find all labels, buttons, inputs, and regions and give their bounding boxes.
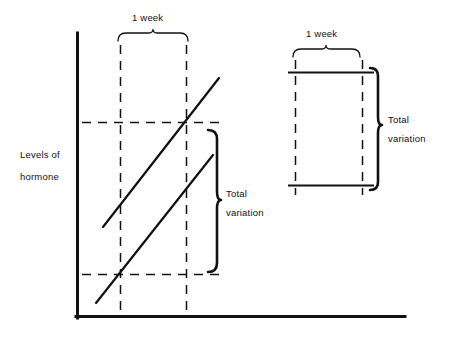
right-panel-group [288,46,382,196]
left-total-variation-label-line2: variation [226,207,264,218]
y-axis-label-line2: hormone [20,168,59,185]
right-total-variation-label-line1: Total [388,114,409,125]
y-axis-label-line1: Levels of [20,146,60,163]
axes-group [76,33,405,318]
hormone-variation-figure: 1 week Total variation 1 week Total vari… [0,0,449,337]
figure-canvas [0,0,449,337]
left-panel-group [82,30,222,311]
left-total-variation-brace [208,130,221,272]
right-week-label: 1 week [306,28,337,39]
left-week-label: 1 week [132,12,163,23]
left-week-brace [118,30,188,42]
right-week-brace [293,46,360,58]
right-total-variation-label-line2: variation [388,133,426,144]
left-total-variation-label-line1: Total [226,188,247,199]
right-total-variation-brace [370,68,382,190]
left-lower-trend-line [96,155,213,303]
